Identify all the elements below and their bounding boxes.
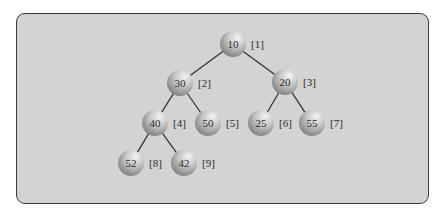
edge-3-7 bbox=[291, 91, 306, 114]
node-value: 55 bbox=[307, 117, 319, 129]
node-value: 42 bbox=[179, 157, 190, 169]
heap-node-4: 40[4] bbox=[142, 110, 186, 136]
edge-2-5 bbox=[186, 92, 201, 114]
heap-node-8: 52[8] bbox=[118, 150, 162, 176]
node-value: 40 bbox=[150, 117, 162, 129]
node-value: 30 bbox=[175, 77, 187, 89]
edge-1-2 bbox=[189, 51, 224, 77]
edge-1-3 bbox=[242, 50, 276, 75]
heap-node-7: 55[7] bbox=[299, 110, 343, 136]
node-index-label: [5] bbox=[226, 117, 239, 129]
node-index-label: [9] bbox=[202, 157, 215, 169]
node-index-label: [2] bbox=[198, 77, 211, 89]
node-value: 52 bbox=[126, 157, 137, 169]
heap-node-5: 50[5] bbox=[195, 110, 239, 136]
node-index-label: [4] bbox=[173, 117, 186, 129]
node-value: 10 bbox=[228, 38, 240, 50]
edge-4-8 bbox=[137, 132, 150, 153]
heap-node-1: 10[1] bbox=[220, 31, 264, 57]
node-value: 25 bbox=[256, 117, 268, 129]
node-index-label: [6] bbox=[279, 117, 292, 129]
tree-edges bbox=[137, 50, 306, 154]
tree-nodes: 10[1]30[2]20[3]40[4]50[5]25[6]55[7]52[8]… bbox=[118, 31, 343, 176]
heap-node-9: 42[9] bbox=[171, 150, 215, 176]
heap-node-6: 25[6] bbox=[248, 110, 292, 136]
node-value: 20 bbox=[280, 76, 292, 88]
node-index-label: [8] bbox=[149, 157, 162, 169]
heap-tree: 10[1]30[2]20[3]40[4]50[5]25[6]55[7]52[8]… bbox=[0, 0, 444, 216]
node-value: 50 bbox=[203, 117, 215, 129]
heap-node-3: 20[3] bbox=[272, 69, 316, 95]
edge-4-9 bbox=[161, 132, 177, 154]
node-index-label: [3] bbox=[303, 76, 316, 88]
node-index-label: [7] bbox=[330, 117, 343, 129]
heap-node-2: 30[2] bbox=[167, 70, 211, 96]
node-index-label: [1] bbox=[251, 38, 264, 50]
edge-3-6 bbox=[267, 91, 280, 113]
edge-2-4 bbox=[161, 92, 174, 113]
